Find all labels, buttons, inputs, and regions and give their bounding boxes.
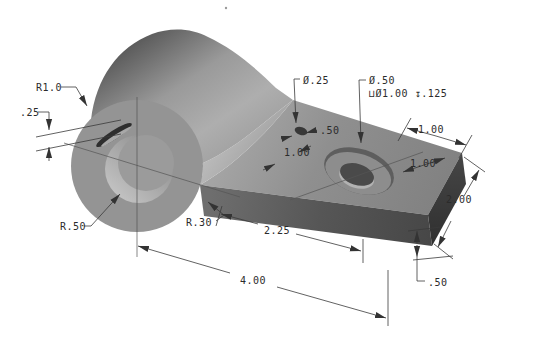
dim-hole-to-side: 1.00 [410, 158, 436, 169]
dim-plate-thickness: .50 [428, 277, 448, 288]
dim-small-hole-spacing: 1.00 [284, 147, 310, 158]
dim-small-hole-offset: .50 [320, 125, 340, 136]
dimline-slot-a [38, 112, 49, 130]
dim-boss-radius: R1.0 [36, 82, 62, 93]
extline-width-a [464, 157, 485, 172]
cylinder-bore-inner-wall [118, 135, 174, 191]
dim-fillet-radius: R.30 [186, 217, 212, 228]
dim-cbore-note: ⊔Ø1.00 ↧.125 [369, 88, 447, 99]
dim-bore-radius: R.50 [60, 221, 86, 232]
dimline-400-b [277, 287, 386, 318]
dim-hole-to-end: 1.00 [418, 124, 444, 135]
extline-thk-b [413, 256, 453, 260]
dim-plate-width: 2.00 [446, 194, 472, 205]
dim-overall-length: 4.00 [240, 275, 266, 286]
dim-plate-segment: 2.25 [264, 225, 290, 236]
drawing-canvas: R1.0 .25 Ø.25 Ø.50 ⊔Ø1.00 ↧.125 .50 1.00… [0, 0, 538, 342]
dim-small-hole-dia: Ø.25 [303, 75, 329, 86]
isometric-part-drawing: R1.0 .25 Ø.25 Ø.50 ⊔Ø1.00 ↧.125 .50 1.00… [0, 0, 538, 342]
leader-thk [417, 257, 425, 281]
dim-cbore-dia: Ø.50 [369, 75, 395, 86]
dimline-400-a [138, 246, 230, 273]
leader-boss-radius [61, 87, 87, 106]
dimline-end-b [436, 136, 466, 145]
dimline-225-b [296, 234, 361, 251]
dust-speck [225, 7, 227, 9]
part-body [71, 29, 466, 246]
dimline-width-a [464, 170, 479, 196]
dim-slot-depth: .25 [20, 107, 40, 118]
extline-end-b [459, 135, 472, 158]
